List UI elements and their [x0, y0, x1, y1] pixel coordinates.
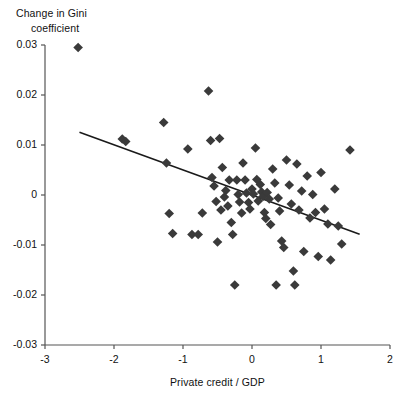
data-point: [232, 175, 242, 185]
data-point: [237, 208, 247, 218]
data-point: [204, 86, 214, 96]
data-point: [206, 136, 216, 146]
data-point: [268, 164, 278, 174]
y-tick-label: 0.02: [1, 88, 37, 100]
data-point: [235, 197, 245, 207]
data-point: [326, 255, 336, 265]
trend-line: [80, 132, 360, 234]
data-point: [299, 247, 309, 257]
data-point: [270, 178, 280, 188]
y-tick-label: -0.01: [1, 238, 37, 250]
data-point: [228, 230, 238, 240]
x-axis-label: Private credit / GDP: [170, 376, 265, 388]
data-point: [273, 193, 283, 203]
data-point: [251, 143, 261, 153]
x-tick-label: -3: [33, 353, 57, 365]
data-point: [162, 158, 172, 168]
data-point: [230, 280, 240, 290]
data-point: [218, 163, 228, 173]
data-point: [282, 155, 292, 165]
x-tick-label: 0: [240, 353, 264, 365]
data-point: [337, 239, 347, 249]
data-point: [73, 43, 83, 53]
data-point: [198, 208, 208, 218]
y-tick-label: -0.02: [1, 288, 37, 300]
data-point: [213, 237, 223, 247]
data-point: [292, 159, 302, 169]
data-point: [159, 118, 169, 128]
data-point: [168, 229, 178, 239]
y-tick-label: 0.03: [1, 38, 37, 50]
data-point: [240, 175, 250, 185]
data-point: [164, 209, 174, 219]
y-axis-label-line2: coefficient: [31, 22, 79, 34]
y-tick-label: 0.01: [1, 138, 37, 150]
data-points: [73, 43, 354, 290]
y-tick-label: 0: [1, 188, 37, 200]
data-point: [320, 204, 330, 214]
data-point: [302, 171, 312, 181]
y-axis-label-line1: Change in Gini: [16, 7, 87, 19]
data-point: [245, 204, 255, 214]
data-point: [289, 266, 299, 276]
scatter-chart-figure: Change in Gini coefficient Private credi…: [0, 0, 404, 397]
data-point: [271, 280, 281, 290]
data-point: [313, 252, 323, 262]
y-tick-label: -0.03: [1, 338, 37, 350]
data-point: [193, 230, 203, 240]
x-tick-label: -2: [102, 353, 126, 365]
data-point: [211, 197, 221, 207]
data-point: [183, 144, 193, 154]
data-point: [275, 206, 285, 216]
data-point: [238, 158, 248, 168]
data-point: [308, 190, 318, 200]
data-point: [330, 184, 340, 194]
data-point: [297, 186, 307, 196]
x-tick-label: -1: [171, 353, 195, 365]
axes: [41, 45, 390, 349]
x-tick-label: 2: [378, 353, 402, 365]
data-point: [333, 221, 343, 231]
x-tick-label: 1: [309, 353, 333, 365]
data-point: [227, 218, 237, 228]
data-point: [215, 134, 225, 144]
data-point: [345, 145, 355, 155]
plot-canvas: [0, 0, 404, 397]
data-point: [284, 180, 294, 190]
data-point: [290, 280, 300, 290]
data-point: [316, 168, 326, 178]
